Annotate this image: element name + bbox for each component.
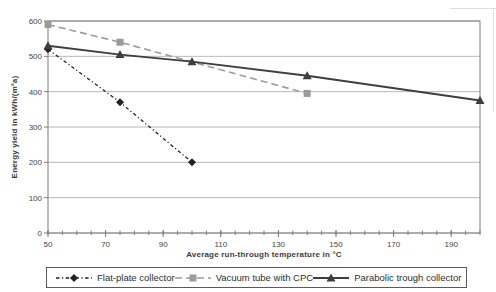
legend-label: Vacuum tube with CPC [216,272,314,283]
chart: 0100200300400500600507090110130150170190… [0,0,496,292]
square-marker-icon [175,273,211,283]
x-tick-label: 170 [387,240,401,249]
square-marker [117,39,124,46]
square-marker [45,21,52,28]
scan-edge-artifact [493,8,494,112]
x-tick-label: 90 [159,240,168,249]
y-tick-label: 100 [29,194,43,203]
legend-label: Parabolic trough collector [354,272,461,283]
plot-area: 0100200300400500600507090110130150170190 [0,0,496,292]
y-axis-title: Energy yield in kWh/(m²a) [10,21,23,233]
y-tick-label: 600 [29,17,43,26]
diamond-swatch [56,273,92,283]
series-line-1 [48,25,307,94]
triangle-marker-icon [313,273,349,283]
legend-item-vacuum-tube-with-cpc: Vacuum tube with CPC [175,272,314,283]
y-tick-label: 400 [29,88,43,97]
series-line-2 [48,46,480,101]
diamond-marker [188,158,196,166]
x-tick-label: 110 [214,240,227,249]
legend-label: Flat-plate collector [97,272,175,283]
x-tick-label: 150 [329,240,343,249]
square-marker [189,274,196,281]
y-tick-label: 500 [29,52,43,61]
y-tick-label: 300 [29,123,43,132]
diamond-marker-icon [56,273,92,283]
diamond-marker [70,274,78,282]
x-axis-title: Average run-through temperature in °C [48,250,480,259]
x-tick-label: 190 [445,240,459,249]
x-tick-label: 50 [44,240,53,249]
legend-item-parabolic-trough-collector: Parabolic trough collector [313,272,461,283]
x-tick-label: 70 [101,240,110,249]
triangle-swatch [313,273,349,283]
y-tick-label: 0 [38,229,43,238]
legend: Flat-plate collector Vacuum tube with CP… [46,267,467,288]
square-swatch [175,273,211,283]
square-marker [304,90,311,97]
y-tick-label: 200 [29,158,43,167]
legend-item-flat-plate-collector: Flat-plate collector [56,272,175,283]
scan-edge-artifact [450,8,496,9]
x-tick-label: 130 [272,240,286,249]
